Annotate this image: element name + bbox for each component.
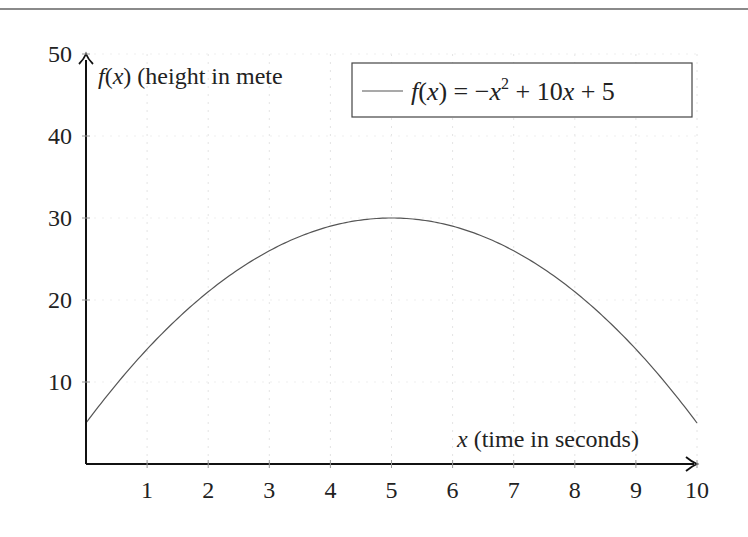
y-tick-label: 30 [48, 205, 72, 231]
x-tick-label: 5 [386, 477, 398, 503]
x-tick-label: 10 [685, 477, 709, 503]
x-tick-label: 2 [202, 477, 214, 503]
y-tick-label: 40 [48, 123, 72, 149]
x-tick-label: 3 [263, 477, 275, 503]
y-tick-label: 50 [48, 41, 72, 67]
legend-entry-label: f(x) = −x2 + 10x + 5 [411, 75, 615, 106]
x-tick-label: 9 [630, 477, 642, 503]
x-tick-labels: 12345678910 [141, 460, 709, 503]
x-tick-label: 1 [141, 477, 153, 503]
line-chart: 12345678910 1020304050 f(x) (height in m… [0, 0, 748, 537]
x-tick-label: 4 [324, 477, 336, 503]
y-tick-labels: 1020304050 [48, 41, 90, 395]
series-line [86, 218, 697, 423]
x-tick-label: 6 [447, 477, 459, 503]
plot-area [86, 218, 697, 423]
x-tick-label: 8 [569, 477, 581, 503]
x-tick-label: 7 [508, 477, 520, 503]
y-axis-label: f(x) (height in mete [98, 63, 283, 89]
y-tick-label: 20 [48, 287, 72, 313]
legend: f(x) = −x2 + 10x + 5 [352, 63, 692, 117]
x-axis-label: x (time in seconds) [456, 426, 639, 452]
y-tick-label: 10 [48, 369, 72, 395]
